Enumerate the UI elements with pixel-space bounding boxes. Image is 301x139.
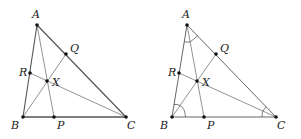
point-p: [202, 115, 206, 119]
angle-mark-b-1: [180, 106, 186, 118]
label-q: Q: [220, 42, 229, 55]
label-r: R: [167, 66, 176, 79]
point-r: [28, 71, 32, 75]
angle-mark-c-2: [263, 107, 266, 111]
point-x: [45, 79, 49, 83]
angle-mark-b-2: [174, 104, 180, 105]
point-b: [170, 115, 174, 119]
label-r: R: [18, 66, 27, 79]
label-a: A: [181, 8, 190, 21]
point-x: [195, 79, 199, 83]
label-p: P: [56, 119, 65, 132]
cevian-cr: [30, 73, 126, 117]
side-ac: [187, 25, 276, 117]
label-x: X: [51, 76, 61, 89]
label-b: B: [10, 119, 19, 132]
point-a: [35, 23, 39, 27]
figure-left: A Q R X B P C: [10, 8, 136, 132]
point-a: [185, 23, 189, 27]
angle-mark-c-1: [262, 111, 263, 117]
point-q: [64, 52, 68, 56]
angle-mark-a-2: [190, 36, 197, 42]
point-r: [177, 71, 181, 75]
point-p: [52, 115, 56, 119]
point-b: [21, 115, 25, 119]
label-b: B: [159, 119, 168, 132]
diagram-canvas: A Q R X B P C A Q R X B P: [0, 0, 301, 139]
label-a: A: [31, 8, 40, 21]
cevian-cr: [179, 73, 276, 117]
cevian-ap: [187, 25, 204, 117]
label-p: P: [206, 119, 215, 132]
side-ac: [37, 25, 126, 117]
label-c: C: [277, 119, 286, 132]
figure-right: A Q R X B P C: [159, 8, 286, 132]
label-q: Q: [70, 42, 79, 55]
label-c: C: [127, 119, 136, 132]
label-x: X: [201, 76, 211, 89]
point-q: [214, 52, 218, 56]
cevian-ap: [37, 25, 54, 117]
